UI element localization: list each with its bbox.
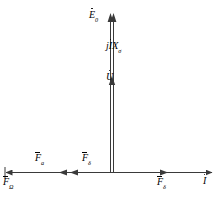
label-voltage-base: U [106,72,113,82]
label-force-delta-left-sub: δ [88,159,91,166]
label-emf-sub: 0 [95,16,98,23]
label-force-a: Fa [35,153,44,165]
label-reactance-current: I [109,41,112,51]
force-delta-left-arrowhead [59,170,67,176]
label-force-omega: FΩ [3,177,14,189]
label-current: I [203,176,206,186]
label-force-omega-sub: Ω [9,183,13,190]
label-force-a-sub: a [41,159,44,166]
label-voltage: U [106,72,113,82]
phasor-diagram-canvas: E0 jIXσ U Fa Fδ FΩ Fδ I [0,0,217,197]
label-force-delta-right: Fδ [157,177,166,189]
diagram-vectors [0,0,217,197]
label-current-base: I [203,176,206,186]
label-reactance-sub: σ [118,47,121,54]
label-force-delta-left: Fδ [82,153,91,165]
emf-arrowheads [108,13,117,22]
label-reactance-drop: jIXσ [106,41,121,53]
label-force-delta-right-sub: δ [163,183,166,190]
force-a-arrowhead [70,170,78,176]
label-emf: E0 [89,10,98,22]
